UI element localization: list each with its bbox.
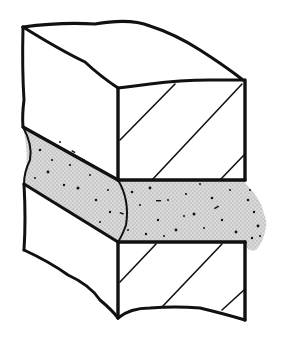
masonry-joint-drawing <box>0 0 290 347</box>
mortar-extrusion <box>244 182 266 251</box>
diagram-canvas: Isometric line drawing of a masonry wall… <box>0 0 290 347</box>
mortar-joint <box>23 127 266 251</box>
